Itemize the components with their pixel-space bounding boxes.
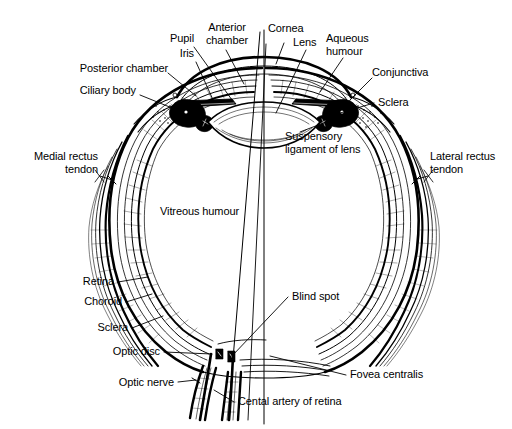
label-suspensory-ligament: Suspensory ligament of lens — [285, 130, 381, 155]
label-sclera-bottom: Sclera — [68, 321, 128, 334]
label-conjunctiva: Conjunctiva — [372, 66, 450, 79]
label-aqueous-humour: Aqueous humour — [326, 32, 388, 57]
label-fovea-centralis: Fovea centralis — [350, 368, 450, 381]
label-sclera-top: Sclera — [378, 96, 428, 109]
optic-axis-line — [228, 32, 260, 420]
label-medial-rectus-tendon: Medial rectus tendon — [18, 150, 98, 175]
label-posterior-chamber: Posterior chamber — [68, 62, 168, 75]
optic-axis-line-2 — [248, 44, 266, 420]
label-anterior-chamber: Anterior chamber — [192, 21, 262, 46]
label-iris: Iris — [152, 47, 194, 60]
label-pupil: Pupil — [140, 32, 194, 45]
label-lateral-rectus-tendon: Lateral rectus tendon — [430, 150, 510, 175]
label-ciliary-body: Ciliary body — [50, 84, 136, 97]
label-retina: Retina — [58, 275, 114, 288]
label-optic-nerve: Optic nerve — [96, 376, 174, 389]
label-central-artery: Cental artery of retina — [238, 395, 388, 408]
label-optic-disc: Optic disc — [82, 345, 160, 358]
label-choroid: Choroid — [58, 295, 122, 308]
eye-anatomy-figure: Posterior chamber Ciliary body Pupil Iri… — [0, 0, 512, 429]
label-cornea: Cornea — [268, 22, 324, 35]
label-vitreous-humour: Vitreous humour — [160, 205, 270, 218]
label-blind-spot: Blind spot — [292, 290, 364, 303]
